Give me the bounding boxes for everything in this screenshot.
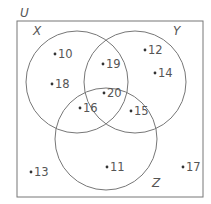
element-value: 12	[148, 43, 163, 57]
set-x-circle	[26, 31, 128, 133]
element-19: 19	[102, 57, 121, 71]
point-dot-icon	[106, 166, 109, 169]
venn-diagram: U X Y Z 1018191214201615111317	[0, 0, 211, 204]
element-11: 11	[106, 160, 125, 174]
point-dot-icon	[154, 72, 157, 75]
element-value: 19	[106, 57, 121, 71]
point-dot-icon	[54, 53, 57, 56]
point-dot-icon	[182, 166, 185, 169]
element-value: 15	[134, 104, 149, 118]
element-18: 18	[51, 77, 70, 91]
element-value: 14	[158, 66, 173, 80]
element-17: 17	[182, 160, 201, 174]
element-15: 15	[130, 104, 149, 118]
set-z-label: Z	[151, 176, 161, 190]
element-points: 1018191214201615111317	[30, 43, 201, 179]
element-value: 20	[107, 86, 122, 100]
element-value: 10	[58, 47, 73, 61]
universe-label: U	[20, 6, 29, 20]
element-14: 14	[154, 66, 173, 80]
element-value: 16	[83, 101, 98, 115]
element-16: 16	[79, 101, 98, 115]
element-10: 10	[54, 47, 73, 61]
point-dot-icon	[30, 171, 33, 174]
element-value: 11	[110, 160, 125, 174]
element-value: 18	[55, 77, 70, 91]
set-y-label: Y	[173, 24, 182, 38]
point-dot-icon	[51, 83, 54, 86]
element-value: 17	[186, 160, 201, 174]
element-12: 12	[144, 43, 163, 57]
element-value: 13	[34, 165, 49, 179]
point-dot-icon	[130, 110, 133, 113]
point-dot-icon	[79, 107, 82, 110]
set-x-label: X	[32, 24, 42, 38]
point-dot-icon	[144, 49, 147, 52]
element-13: 13	[30, 165, 49, 179]
point-dot-icon	[102, 63, 105, 66]
point-dot-icon	[103, 92, 106, 95]
